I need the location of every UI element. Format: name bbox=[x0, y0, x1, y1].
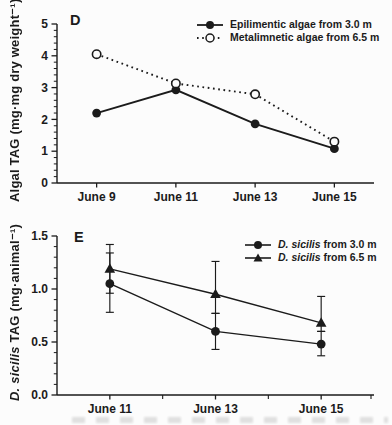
species-name-italic: D. sicilis bbox=[278, 251, 321, 263]
svg-text:0.5: 0.5 bbox=[31, 335, 48, 349]
svg-text:June 9: June 9 bbox=[78, 190, 116, 204]
panel-e: 0.00.51.01.5June 11June 13June 15 D. sic… bbox=[0, 212, 392, 425]
svg-text:June 13: June 13 bbox=[193, 402, 238, 416]
legend-label: D. sicilis from 3.0 m bbox=[278, 239, 377, 250]
svg-text:5: 5 bbox=[41, 17, 48, 31]
svg-text:1.5: 1.5 bbox=[31, 229, 48, 243]
panel-d-y-axis-title: Algal TAG (mg·mg dry weight⁻¹) bbox=[1, 10, 27, 190]
svg-text:June 13: June 13 bbox=[233, 190, 278, 204]
solid-line-filled-circle-icon bbox=[244, 240, 272, 250]
svg-text:June 11: June 11 bbox=[88, 402, 132, 416]
svg-text:June 11: June 11 bbox=[154, 190, 198, 204]
panel-e-legend: D. sicilis from 3.0 m D. sicilis from 6.… bbox=[244, 239, 377, 263]
panel-d: 012345June 9June 11June 13June 15 Algal … bbox=[0, 0, 392, 212]
series-0 bbox=[92, 85, 339, 153]
x-ticks: June 11June 13June 15 bbox=[88, 395, 371, 416]
svg-text:1.0: 1.0 bbox=[31, 282, 48, 296]
legend-label-rest: from 3.0 m bbox=[321, 238, 377, 250]
legend-label-rest: from 6.5 m bbox=[321, 251, 377, 263]
svg-text:3: 3 bbox=[41, 81, 48, 95]
legend-item-metalimnetic: Metalimnetic algae from 6.5 m bbox=[196, 32, 379, 43]
legend-label: D. sicilis from 6.5 m bbox=[278, 252, 377, 263]
y-axis-title-text: Algal TAG (mg·mg dry weight⁻¹) bbox=[7, 0, 22, 202]
svg-text:1: 1 bbox=[41, 144, 48, 158]
svg-text:0.0: 0.0 bbox=[31, 388, 48, 402]
panel-d-legend: Epilimentic algae from 3.0 m Metalimneti… bbox=[196, 19, 379, 43]
svg-text:0: 0 bbox=[41, 176, 48, 190]
svg-text:June 15: June 15 bbox=[312, 190, 357, 204]
svg-text:2: 2 bbox=[41, 113, 48, 127]
panel-e-letter: E bbox=[74, 229, 84, 245]
legend-label: Epilimentic algae from 3.0 m bbox=[230, 19, 372, 30]
panel-d-letter: D bbox=[70, 12, 80, 28]
legend-item-sicilis-65m: D. sicilis from 6.5 m bbox=[244, 252, 377, 263]
legend-item-epilimnetic: Epilimentic algae from 3.0 m bbox=[196, 19, 379, 30]
series-1 bbox=[92, 50, 338, 146]
svg-text:4: 4 bbox=[41, 49, 48, 63]
two-panel-line-figure: 012345June 9June 11June 13June 15 Algal … bbox=[0, 0, 392, 425]
species-name-italic: D. sicilis bbox=[7, 346, 22, 401]
panel-e-y-axis-title: D. sicilis TAG (mg·animal⁻¹) bbox=[1, 222, 27, 402]
legend-label: Metalimnetic algae from 6.5 m bbox=[230, 32, 379, 43]
legend-item-sicilis-3m: D. sicilis from 3.0 m bbox=[244, 239, 377, 250]
y-ticks: 0.00.51.01.5 bbox=[31, 229, 57, 402]
faint-cropped-caption-artifact bbox=[72, 417, 388, 423]
y-axis-title-rest: TAG (mg·animal⁻¹) bbox=[7, 223, 22, 345]
species-name-italic: D. sicilis bbox=[278, 238, 321, 250]
dotted-line-open-circle-icon bbox=[196, 33, 224, 43]
solid-line-filled-triangle-icon bbox=[244, 253, 272, 263]
y-ticks: 012345 bbox=[41, 17, 57, 190]
x-ticks: June 9June 11June 13June 15 bbox=[78, 183, 357, 204]
solid-line-filled-circle-icon bbox=[196, 20, 224, 30]
svg-text:June 15: June 15 bbox=[299, 402, 344, 416]
y-axis-title-text: D. sicilis TAG (mg·animal⁻¹) bbox=[7, 223, 22, 400]
axes bbox=[57, 24, 374, 183]
